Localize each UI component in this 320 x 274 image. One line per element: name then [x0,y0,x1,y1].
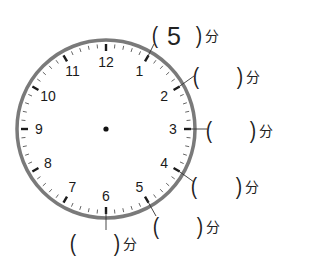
hour-numeral-10: 10 [40,88,56,104]
hour-tick [64,55,68,61]
minute-tick [28,162,32,164]
minute-tick [25,154,29,155]
open-paren: ( [191,173,197,199]
minute-tick [25,103,29,104]
hour-numeral-11: 11 [65,63,80,79]
hour-numeral-5: 5 [136,179,144,195]
minute-tick [80,206,81,210]
hour-tick [64,197,68,203]
close-paren: ) [197,213,203,239]
answer-slot-6: ( ) 分 [69,230,144,258]
center-dot [103,126,108,131]
minute-tick [139,203,141,207]
open-paren: ( [152,22,158,48]
unit-label: 分 [246,69,260,85]
minute-tick [160,189,163,192]
hour-numeral-6: 6 [102,188,110,204]
minute-tick [56,60,58,63]
minute-tick [139,51,141,55]
minute-tick [49,66,52,69]
close-paren: ) [236,173,242,199]
minute-tick [71,203,73,207]
minute-tick [23,146,27,147]
minute-tick [183,103,187,104]
minute-tick [131,206,132,210]
minute-tick [123,46,124,50]
hour-numeral-4: 4 [160,155,168,171]
unit-label: 分 [206,219,220,235]
minute-tick [131,48,132,52]
minute-tick [185,146,189,147]
minute-tick [56,195,58,198]
minute-tick [37,177,40,179]
minute-tick [43,183,46,186]
answer-slot-4: ( ) 分 [190,173,265,201]
open-paren: ( [193,63,199,89]
hour-numeral-2: 2 [160,88,168,104]
minute-tick [166,72,169,75]
hour-numeral-1: 1 [136,63,144,79]
minute-tick [160,66,163,69]
minute-tick [49,189,52,192]
minute-tick [154,195,156,198]
minute-tick [183,154,187,155]
minute-tick [154,60,156,63]
hour-tick [32,168,38,172]
hour-numeral-8: 8 [44,155,52,171]
close-paren: ) [196,22,202,48]
minute-tick [88,208,89,212]
hour-tick [32,87,38,91]
minute-tick [172,79,175,81]
open-paren: ( [206,117,212,143]
answer-slot-3: ( ) 分 [205,117,280,145]
close-paren: ) [237,63,243,89]
hour-numeral-3: 3 [169,121,177,137]
minute-tick [37,79,40,81]
answer-input-1[interactable]: 5 [167,22,181,50]
minute-tick [80,48,81,52]
unit-label: 分 [205,28,219,44]
minute-tick [123,208,124,212]
minute-tick [43,72,46,75]
unit-label: 分 [245,179,259,195]
answer-slot-5: ( ) 分 [152,213,227,241]
minute-tick [28,94,32,96]
minute-tick [88,46,89,50]
minute-tick [185,111,189,112]
unit-label: 分 [123,236,137,252]
open-paren: ( [153,213,159,239]
minute-tick [180,94,184,96]
close-paren: ) [250,117,256,143]
minute-tick [180,162,184,164]
hour-numeral-7: 7 [69,179,77,195]
answer-slot-2: ( ) 分 [192,63,267,91]
answer-slot-1: ( 5 ) 分 [151,22,226,50]
minute-tick [166,183,169,186]
hour-numeral-9: 9 [35,121,43,137]
minute-tick [71,51,73,55]
unit-label: 分 [259,123,273,139]
minute-tick [23,111,27,112]
minute-tick [172,177,175,179]
open-paren: ( [70,230,76,256]
hour-numeral-12: 12 [98,54,114,70]
close-paren: ) [114,230,120,256]
